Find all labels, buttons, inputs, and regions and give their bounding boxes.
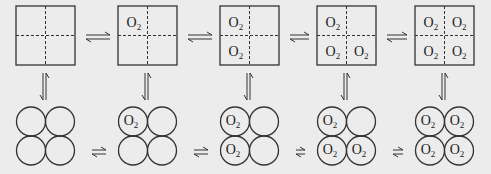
o2-label: O2 [229,15,244,32]
o2-label: O2 [424,15,439,32]
equilibrium-arrow-bottom-2 [296,147,305,157]
o2-label: O2 [127,15,142,32]
o2-label: O2 [226,113,241,130]
o2-label: O2 [424,44,439,61]
equilibrium-arrow-bottom-0 [92,147,106,157]
diagram-canvas: O2O2O2O2O2O2O2O2O2O2O2O2O2O2O2O2O2O2O2O2 [0,0,491,174]
equilibrium-arrow-bottom-3 [393,147,403,157]
o2-label: O2 [124,113,139,130]
o2-label: O2 [450,113,465,130]
o2-label: O2 [323,113,338,130]
o2-label: O2 [326,15,341,32]
equilibrium-arrow-top-1 [188,32,212,42]
equilibrium-arrow-top-2 [290,32,309,42]
o2-label: O2 [452,15,467,32]
equilibrium-arrow-top-3 [387,32,407,42]
o2-label: O2 [323,142,338,159]
o2-label: O2 [326,44,341,61]
equilibrium-arrow-vertical-2 [244,73,253,100]
o2-label: O2 [452,44,467,61]
equilibrium-arrow-vertical-4 [439,73,448,100]
o2-label: O2 [421,142,436,159]
equilibrium-arrow-top-0 [86,32,110,42]
t-state-2: O2O2 [220,6,279,65]
r-state-4: O2O2O2O2 [416,107,474,165]
equilibrium-arrow-vertical-0 [40,73,49,100]
t-state-3: O2O2O2 [317,6,376,65]
o2-label: O2 [450,142,465,159]
o2-label: O2 [352,142,367,159]
equilibrium-arrow-vertical-1 [142,73,151,100]
r-state-3: O2O2O2 [318,107,376,165]
t-state-0 [16,6,75,65]
r-state-0 [17,107,75,165]
equilibrium-arrow-bottom-1 [194,147,208,157]
t-state-4: O2O2O2O2 [415,6,474,65]
o2-label: O2 [229,44,244,61]
r-state-2: O2O2 [221,107,279,165]
o2-label: O2 [226,142,241,159]
o2-label: O2 [421,113,436,130]
t-state-1: O2 [118,6,177,65]
r-state-1: O2 [119,107,177,165]
o2-label: O2 [354,44,369,61]
equilibrium-arrow-vertical-3 [341,73,350,100]
